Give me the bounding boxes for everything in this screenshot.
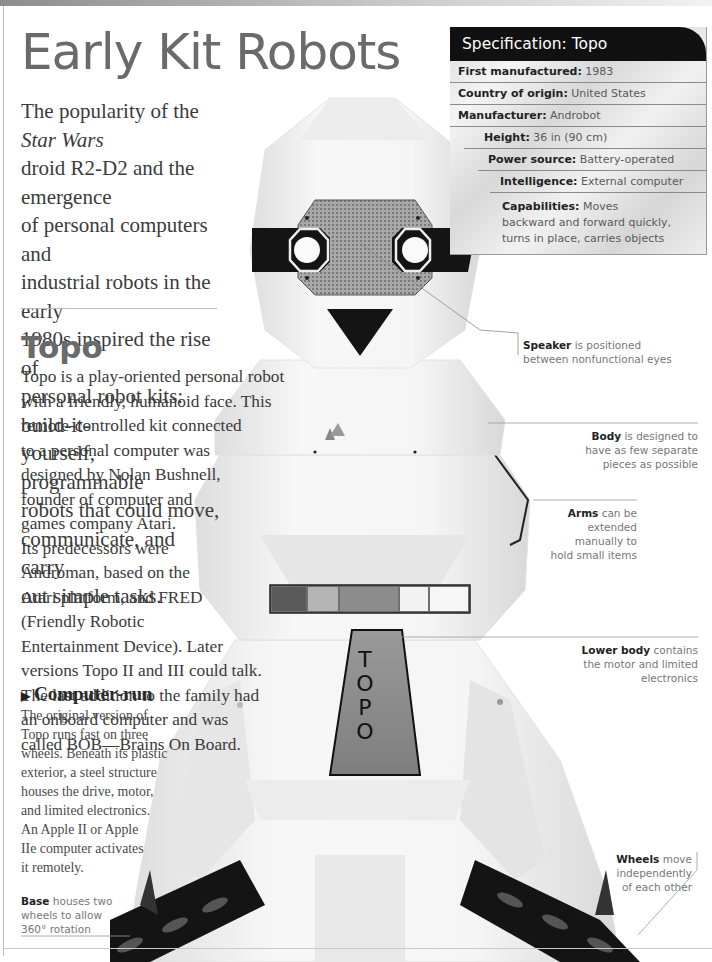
callout-lower-body: Lower body contains the motor and limite… [538,643,698,685]
callout-text: manually to [575,535,637,547]
callout-base: Base houses two wheels to allow 360° rot… [21,894,112,936]
callout-text: can be [598,507,637,519]
callout-wheels: Wheels move independently of each other [610,852,692,894]
callout-speaker: Speaker is positioned between nonfunctio… [523,338,672,366]
callout-label: Wheels [616,853,659,865]
callout-text: of each other [622,881,692,893]
callout-label: Body [592,430,622,442]
callout-text: 360° rotation [21,923,91,935]
bottom-rule [3,948,712,949]
callout-text: is designed to [621,430,698,442]
callout-text: move [659,853,692,865]
callout-text: have as few separate [585,444,698,456]
callout-text: contains [650,644,698,656]
callout-label: Base [21,895,49,907]
callout-arms: Arms can be extended manually to hold sm… [537,506,637,562]
callout-label: Speaker [523,339,571,351]
callout-label: Lower body [582,644,651,656]
callout-text: wheels to allow [21,909,102,921]
callout-text: extended [587,521,637,533]
callout-text: the motor and limited [583,658,698,670]
callout-text: electronics [641,672,698,684]
callout-text: between nonfunctional eyes [523,353,672,365]
callout-body: Body is designed to have as few separate… [538,429,698,471]
callout-text: hold small items [551,549,638,561]
callout-label: Arms [568,507,599,519]
callout-text: is positioned [571,339,641,351]
callout-text: houses two [49,895,112,907]
callout-text: pieces as possible [603,458,698,470]
callout-leader-lines [0,0,712,962]
callout-text: independently [616,867,692,879]
